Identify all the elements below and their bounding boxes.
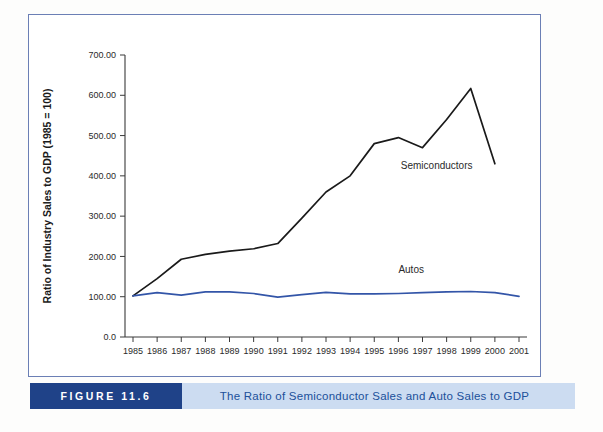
figure-caption-text: The Ratio of Semiconductor Sales and Aut… <box>182 383 575 409</box>
x-tick-label: 1999 <box>461 346 481 356</box>
x-tick-label: 1986 <box>147 346 167 356</box>
y-tick-label: 400.00 <box>88 171 116 181</box>
figure-number-label: FIGURE 11.6 <box>30 383 182 409</box>
series-label-semiconductors: Semiconductors <box>401 160 473 171</box>
y-tick-label: 700.00 <box>88 50 116 60</box>
x-tick-label: 1997 <box>412 346 432 356</box>
series-line-autos <box>133 291 519 297</box>
x-tick-label: 1998 <box>437 346 457 356</box>
y-tick-label: 100.00 <box>88 292 116 302</box>
y-axis-ticks: 0.0100.00200.00300.00400.00500.00600.007… <box>88 50 125 342</box>
x-tick-label: 1990 <box>244 346 264 356</box>
y-tick-label: 600.00 <box>88 90 116 100</box>
x-tick-label: 1995 <box>364 346 384 356</box>
y-axis-title: Ratio of Industry Sales to GDP (1985 = 1… <box>41 89 53 304</box>
x-tick-label: 2001 <box>509 346 529 356</box>
x-axis-ticks: 1985198619871988198919901991199219931994… <box>123 337 529 356</box>
figure-caption-bar: FIGURE 11.6 The Ratio of Semiconductor S… <box>30 383 575 409</box>
y-tick-label: 0.0 <box>103 332 116 342</box>
x-tick-label: 1992 <box>292 346 312 356</box>
x-tick-label: 1987 <box>171 346 191 356</box>
x-tick-label: 1996 <box>388 346 408 356</box>
x-tick-label: 1985 <box>123 346 143 356</box>
y-tick-label: 200.00 <box>88 252 116 262</box>
y-tick-label: 300.00 <box>88 211 116 221</box>
chart-frame: Ratio of Industry Sales to GDP (1985 = 1… <box>28 14 541 377</box>
x-tick-label: 1993 <box>316 346 336 356</box>
x-tick-label: 1989 <box>219 346 239 356</box>
series-label-autos: Autos <box>398 264 424 275</box>
figure-page: Ratio of Industry Sales to GDP (1985 = 1… <box>0 0 603 432</box>
line-chart: Ratio of Industry Sales to GDP (1985 = 1… <box>29 15 539 375</box>
series-line-semiconductors <box>133 88 495 295</box>
x-tick-label: 2000 <box>485 346 505 356</box>
y-tick-label: 500.00 <box>88 131 116 141</box>
x-tick-label: 1991 <box>268 346 288 356</box>
x-tick-label: 1994 <box>340 346 360 356</box>
x-tick-label: 1988 <box>195 346 215 356</box>
